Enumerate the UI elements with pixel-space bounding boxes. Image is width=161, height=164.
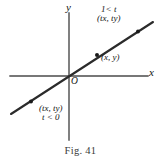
x-axis-label: x xyxy=(149,67,154,79)
figure-caption: Fig. 41 xyxy=(0,145,161,156)
upper-point-label: (tx, ty) xyxy=(97,14,120,23)
upper-annotation-group: 1< t (tx, ty) xyxy=(97,5,120,24)
origin-label: O xyxy=(71,77,78,87)
figure-41: y x O 1< t (tx, ty) (x, y) (tx, ty) t < … xyxy=(0,0,161,164)
lower-annotation-group: (tx, ty) t < 0 xyxy=(39,104,62,123)
point-marker-tx-ty-lower xyxy=(29,100,33,104)
coordinate-plot xyxy=(0,0,161,164)
lower-condition-label: t < 0 xyxy=(39,113,62,122)
y-axis-label: y xyxy=(66,2,71,14)
point-marker-x-y xyxy=(95,53,99,57)
point-marker-tx-ty-upper xyxy=(136,30,140,34)
middle-point-label: (x, y) xyxy=(101,53,119,62)
